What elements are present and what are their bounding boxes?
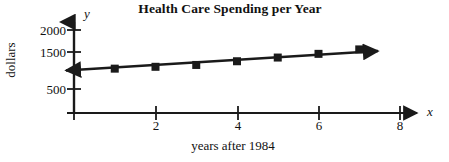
data-point bbox=[152, 63, 160, 71]
data-point bbox=[233, 57, 241, 65]
data-point bbox=[274, 54, 282, 62]
x-axis bbox=[67, 106, 417, 120]
data-point bbox=[315, 50, 323, 58]
data-point-group bbox=[111, 45, 364, 72]
data-point bbox=[111, 65, 119, 73]
data-point bbox=[355, 45, 363, 53]
chart-figure: Health Care Spending per Year dollars ye… bbox=[0, 0, 449, 162]
y-axis bbox=[67, 22, 81, 113]
data-point bbox=[192, 61, 200, 69]
chart-plot-area bbox=[0, 0, 449, 162]
